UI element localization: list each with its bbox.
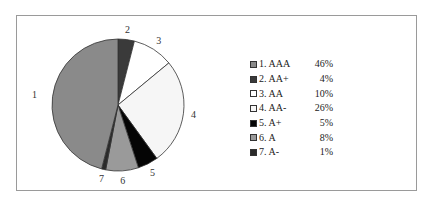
legend-percent: 26% xyxy=(309,102,333,114)
legend-label: 6. A xyxy=(259,132,309,144)
legend-swatch-icon xyxy=(250,134,257,141)
legend-item-a: 6. A 8% xyxy=(250,130,333,145)
legend-swatch-icon xyxy=(250,76,257,83)
slice-label-6: 6 xyxy=(120,175,125,186)
legend-swatch-icon xyxy=(250,149,257,156)
legend-label: 2. AA+ xyxy=(259,73,309,85)
legend-item-aa: 3. AA 10% xyxy=(250,86,333,101)
slice-label-1: 1 xyxy=(32,89,37,100)
legend: 1. AAA 46% 2. AA+ 4% 3. AA 10% 4. AA- 26… xyxy=(250,57,333,160)
legend-percent: 1% xyxy=(309,146,333,158)
legend-swatch-icon xyxy=(250,120,257,127)
legend-label: 1. AAA xyxy=(259,58,309,70)
legend-swatch-icon xyxy=(250,90,257,97)
slice-label-5: 5 xyxy=(150,167,155,178)
legend-label: 4. AA- xyxy=(259,102,309,114)
slice-label-4: 4 xyxy=(191,109,196,120)
legend-item-aa-minus: 4. AA- 26% xyxy=(250,101,333,116)
pie-chart: 2345671 xyxy=(0,0,435,201)
legend-percent: 5% xyxy=(309,117,333,129)
legend-percent: 10% xyxy=(309,88,333,100)
legend-swatch-icon xyxy=(250,61,257,68)
legend-item-aa-plus: 2. AA+ 4% xyxy=(250,72,333,87)
legend-item-a-minus: 7. A- 1% xyxy=(250,145,333,160)
slice-label-2: 2 xyxy=(125,24,130,35)
slice-label-3: 3 xyxy=(156,35,161,46)
legend-percent: 8% xyxy=(309,132,333,144)
slice-label-7: 7 xyxy=(99,173,104,184)
legend-percent: 46% xyxy=(309,58,333,70)
legend-item-aaa: 1. AAA 46% xyxy=(250,57,333,72)
legend-swatch-icon xyxy=(250,105,257,112)
legend-percent: 4% xyxy=(309,73,333,85)
legend-label: 5. A+ xyxy=(259,117,309,129)
legend-item-a-plus: 5. A+ 5% xyxy=(250,116,333,131)
legend-label: 7. A- xyxy=(259,146,309,158)
legend-label: 3. AA xyxy=(259,88,309,100)
